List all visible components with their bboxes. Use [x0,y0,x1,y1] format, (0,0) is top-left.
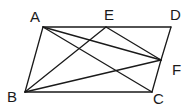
segment-af [43,27,161,60]
segment-df [161,27,171,60]
label-a: A [30,8,40,25]
label-d: D [170,6,181,23]
label-f: F [172,61,181,78]
segments-group [25,27,171,92]
parallelogram-diagram: A E D F B C [0,0,191,108]
label-b: B [7,88,17,105]
segment-ef [106,27,161,60]
label-c: C [153,90,164,107]
segment-ac [43,27,152,92]
segment-ba [25,27,43,92]
segment-fc [152,60,161,92]
label-e: E [104,6,114,23]
